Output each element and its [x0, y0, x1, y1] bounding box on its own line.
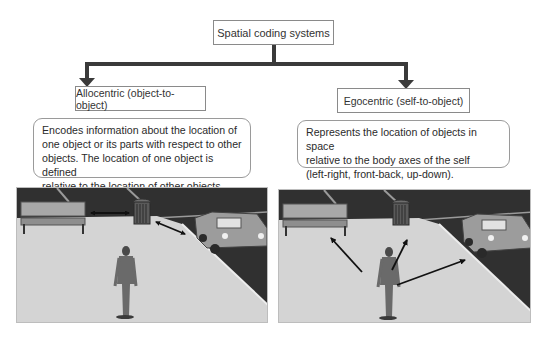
egocentric-scene-image: [278, 189, 531, 323]
root-node: Spatial coding systems: [213, 20, 334, 45]
trash-can-icon: [392, 200, 410, 225]
root-label: Spatial coding systems: [217, 27, 330, 39]
allocentric-node: Allocentric (object-to-object): [75, 86, 206, 111]
allocentric-scene-image: [16, 187, 268, 323]
description-line: one object or its parts with respect to …: [42, 137, 244, 151]
trash-can-icon: [133, 199, 151, 224]
egocentric-description: Represents the location of objects in sp…: [297, 120, 510, 168]
description-line: (left-right, front-back, up-down).: [306, 167, 503, 181]
egocentric-title: Egocentric (self-to-object): [344, 95, 464, 107]
description-line: Encodes information about the location o…: [42, 123, 244, 137]
description-line: objects. The location of one object is d…: [42, 151, 244, 179]
allocentric-title: Allocentric (object-to-object): [76, 87, 205, 111]
allocentric-description: Encodes information about the location o…: [33, 118, 251, 178]
description-line: relative to the body axes of the self: [306, 153, 503, 167]
egocentric-node: Egocentric (self-to-object): [337, 88, 470, 113]
description-line: Represents the location of objects in sp…: [306, 125, 503, 153]
